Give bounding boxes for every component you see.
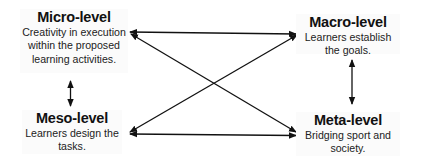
node-title: Meta-level [296,112,400,129]
node-macro-level: Macro-level Learners establish the goals… [296,14,400,54]
node-meta-level: Meta-level Bridging sport and society. [296,112,400,156]
node-title: Micro-level [20,9,128,26]
node-description: Learners design the tasks. [22,127,122,154]
node-micro-level: Micro-level Creativity in execution with… [20,9,128,73]
node-description: Bridging sport and society. [296,129,400,156]
node-meso-level: Meso-level Learners design the tasks. [22,110,122,154]
arrow-meso-meta [130,134,296,136]
node-title: Macro-level [296,14,400,31]
node-description: Creativity in execution within the propo… [20,26,128,66]
node-title: Meso-level [22,110,122,127]
node-description: Learners establish the goals. [296,31,400,58]
arrow-micro-macro [130,32,296,34]
